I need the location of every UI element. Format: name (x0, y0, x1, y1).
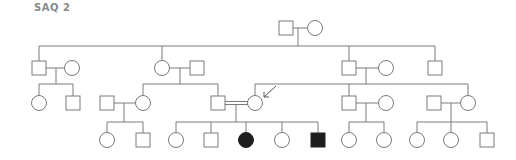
individual-IV-12-male (480, 133, 494, 147)
generation-3 (32, 84, 488, 122)
individual-III-4-male (211, 96, 225, 110)
individual-II-1-male (32, 61, 46, 75)
individual-IV-3-female (169, 133, 184, 148)
individual-III-7-spouse-male (427, 96, 441, 110)
individual-III-3-female (136, 96, 151, 111)
individual-III-6-spouse-female (379, 96, 394, 111)
individual-IV-8-female (342, 133, 357, 148)
individual-III-1-female (32, 96, 47, 111)
individual-IV-9-female (377, 133, 392, 148)
individual-IV-4-male (204, 133, 218, 147)
individual-I-1-male (279, 21, 293, 35)
individual-I-2-female (308, 21, 323, 36)
individual-IV-6-female (275, 133, 290, 148)
proband-arrow-icon (264, 86, 276, 97)
individual-II-4-male (428, 61, 442, 75)
individual-IV-2-male (136, 133, 150, 147)
individual-II-3-spouse-female (379, 61, 394, 76)
individual-II-2-spouse-male (190, 61, 204, 75)
individual-III-6-male (342, 96, 356, 110)
pedigree-chart (0, 0, 516, 160)
individual-II-2-female (155, 61, 170, 76)
generation-2 (32, 46, 468, 84)
individual-IV-7-male-affected (311, 133, 325, 147)
individual-III-7-female (461, 96, 476, 111)
generation-4 (100, 122, 495, 148)
individual-III-3-spouse-male (100, 96, 114, 110)
individual-IV-10-female (410, 133, 425, 148)
generation-1 (39, 21, 435, 47)
individual-II-3-male (342, 61, 356, 75)
individual-IV-1-female (100, 133, 115, 148)
individual-IV-11-female (444, 133, 459, 148)
individual-IV-5-female-affected (239, 133, 254, 148)
individual-III-5-female-proband (248, 96, 263, 111)
individual-III-2-male (66, 96, 80, 110)
individual-II-1-spouse-female (65, 61, 80, 76)
